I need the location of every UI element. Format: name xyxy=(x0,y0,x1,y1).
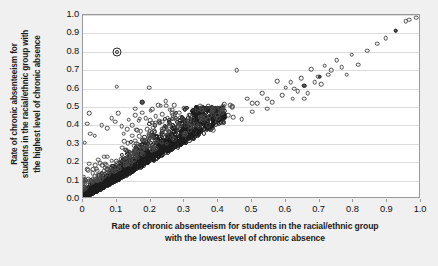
data-point xyxy=(172,103,177,108)
data-point xyxy=(177,110,182,115)
data-point xyxy=(393,28,398,33)
data-point xyxy=(100,163,105,168)
data-point xyxy=(174,118,179,123)
data-point xyxy=(87,161,92,166)
data-point xyxy=(133,107,138,112)
x-axis-tick-mark xyxy=(217,199,218,202)
highlighted-point-inner-ring xyxy=(115,50,119,54)
y-axis-tick-label: 0.4 xyxy=(66,119,79,129)
data-point xyxy=(91,171,96,176)
x-axis-tick-label: 0.5 xyxy=(245,204,258,214)
data-point xyxy=(120,124,125,129)
gridline xyxy=(83,181,419,182)
data-point xyxy=(349,52,354,57)
data-point xyxy=(152,129,157,134)
data-point xyxy=(270,100,275,105)
data-point xyxy=(164,134,169,139)
y-axis-tick-label: 0.9 xyxy=(66,27,79,37)
data-point xyxy=(167,121,172,126)
data-point xyxy=(130,123,135,128)
data-point xyxy=(82,141,87,146)
data-point xyxy=(159,132,164,137)
data-point xyxy=(136,119,141,124)
gridline xyxy=(83,15,419,16)
data-point xyxy=(158,103,163,108)
data-point xyxy=(322,63,327,68)
x-axis-tick-mark xyxy=(82,199,83,202)
data-point xyxy=(124,148,129,153)
data-point xyxy=(344,73,349,78)
x-axis-tick-mark xyxy=(183,199,184,202)
data-point xyxy=(184,119,189,124)
x-axis-tick-label: 0.9 xyxy=(380,204,393,214)
data-point xyxy=(92,191,96,195)
y-axis-tick-label: 0.5 xyxy=(66,101,79,111)
data-point xyxy=(162,126,167,131)
data-point xyxy=(299,76,304,81)
data-point xyxy=(165,116,170,121)
data-point xyxy=(125,127,130,132)
data-point xyxy=(226,113,231,118)
data-point xyxy=(126,118,131,123)
gridline xyxy=(83,33,419,34)
x-axis-tick-label: 0.3 xyxy=(177,204,190,214)
gridline xyxy=(83,89,419,90)
data-point xyxy=(265,96,270,101)
data-point xyxy=(164,130,169,135)
data-point xyxy=(134,148,139,153)
data-point xyxy=(102,174,107,179)
data-point xyxy=(139,151,144,156)
data-point xyxy=(96,174,101,179)
data-point xyxy=(356,62,361,67)
data-point xyxy=(122,156,127,161)
data-point xyxy=(115,84,120,89)
data-point xyxy=(231,115,236,120)
y-axis-tick-label: 0.1 xyxy=(66,175,79,185)
data-point xyxy=(164,99,169,104)
data-point xyxy=(122,139,127,144)
data-point xyxy=(339,65,344,70)
data-point xyxy=(159,140,164,145)
data-point xyxy=(219,107,224,112)
data-point xyxy=(265,107,270,112)
data-point xyxy=(187,128,192,133)
x-axis-tick-mark xyxy=(386,199,387,202)
data-point xyxy=(105,169,110,174)
plot-area xyxy=(82,14,420,198)
data-point xyxy=(157,119,162,124)
data-point xyxy=(211,128,216,133)
data-point xyxy=(240,117,245,122)
x-axis-tick-label: 0.7 xyxy=(312,204,325,214)
data-point xyxy=(142,137,147,142)
data-point xyxy=(326,73,331,78)
data-point xyxy=(375,41,380,46)
y-axis-tick-label: 0.6 xyxy=(66,83,79,93)
data-point xyxy=(191,117,196,122)
data-point xyxy=(191,137,195,141)
data-point xyxy=(147,85,152,90)
data-point xyxy=(228,103,233,108)
y-axis-tick-label: 0.3 xyxy=(66,138,79,148)
data-point xyxy=(206,117,211,122)
data-point xyxy=(284,85,289,90)
data-point xyxy=(145,127,150,132)
x-axis-tick-labels: 00.10.20.30.40.50.60.70.80.91.0 xyxy=(82,199,420,217)
x-axis-tick-mark xyxy=(352,199,353,202)
data-point xyxy=(130,134,135,139)
data-point xyxy=(202,107,207,112)
y-axis-title-line-1: Rate of chronic absenteeism for xyxy=(9,30,20,178)
y-axis-title-line-2: students in the racial/ethnic group with xyxy=(20,30,31,178)
data-point xyxy=(99,123,104,128)
data-point xyxy=(102,155,107,160)
data-point xyxy=(172,146,176,150)
data-point xyxy=(302,96,307,101)
data-point xyxy=(194,122,199,127)
y-axis-tick-label: 0.7 xyxy=(66,64,79,74)
data-point xyxy=(334,58,339,63)
x-axis-tick-label: 0.1 xyxy=(109,204,122,214)
y-axis-title-line-3: the highest level of chronic absence xyxy=(32,30,43,178)
data-point xyxy=(329,68,334,73)
data-point xyxy=(317,74,322,79)
data-point xyxy=(82,182,87,187)
data-point xyxy=(210,107,215,112)
